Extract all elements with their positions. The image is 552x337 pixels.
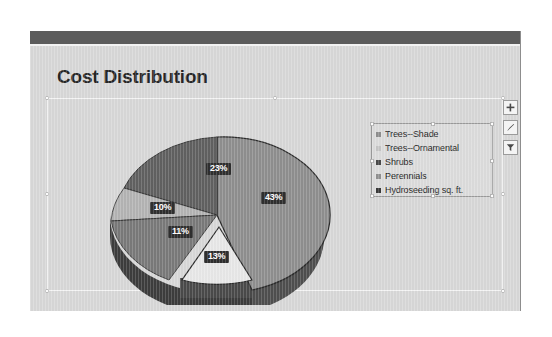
filter-icon xyxy=(506,143,515,152)
data-label-perennials: 11% xyxy=(168,226,193,238)
selection-handle-nw[interactable] xyxy=(45,96,49,100)
legend-swatch-trees-ornamental xyxy=(376,146,381,151)
legend-handle-s[interactable] xyxy=(431,194,435,198)
legend-handle-e[interactable] xyxy=(490,159,494,163)
legend-label-trees-shade: Trees--Shade xyxy=(385,130,439,139)
chart-canvas[interactable]: Cost Distribution xyxy=(30,44,520,311)
legend-label-hydroseeding: Hydroseeding sq. ft. xyxy=(385,186,463,195)
chart-panel[interactable]: Cost Distribution xyxy=(30,31,521,311)
legend-item-perennials[interactable]: Perennials xyxy=(376,169,488,183)
legend-item-shrubs[interactable]: Shrubs xyxy=(376,155,488,169)
legend-handle-n[interactable] xyxy=(431,122,435,126)
legend-handle-nw[interactable] xyxy=(370,122,374,126)
selection-handle-sw[interactable] xyxy=(45,289,49,293)
legend-handle-sw[interactable] xyxy=(370,194,374,198)
legend-handle-ne[interactable] xyxy=(490,122,494,126)
chart-elements-button[interactable] xyxy=(503,100,518,115)
data-label-trees-ornamental: 23% xyxy=(206,163,231,175)
legend-swatch-perennials xyxy=(376,174,381,179)
chart-filters-button[interactable] xyxy=(503,140,518,155)
selection-handle-se[interactable] xyxy=(501,289,505,293)
legend-handle-w[interactable] xyxy=(370,159,374,163)
selection-handle-w[interactable] xyxy=(45,192,49,196)
chart-title[interactable]: Cost Distribution xyxy=(57,66,208,88)
legend-swatch-trees-shade xyxy=(376,132,381,137)
data-label-trees-shade: 43% xyxy=(261,192,286,204)
legend-swatch-shrubs xyxy=(376,160,381,165)
legend-label-perennials: Perennials xyxy=(385,172,427,181)
panel-header-bar xyxy=(30,31,520,44)
pie-chart[interactable]: 23% 43% 10% 11% 13% xyxy=(102,120,332,305)
plus-icon xyxy=(506,103,515,112)
selection-handle-e[interactable] xyxy=(501,192,505,196)
legend-item-trees-shade[interactable]: Trees--Shade xyxy=(376,127,488,141)
selection-handle-n[interactable] xyxy=(273,96,277,100)
legend-label-trees-ornamental: Trees--Ornamental xyxy=(385,144,459,153)
legend-item-trees-ornamental[interactable]: Trees--Ornamental xyxy=(376,141,488,155)
legend-swatch-hydroseeding xyxy=(376,188,381,193)
chart-tools-toolbar[interactable] xyxy=(503,100,518,160)
data-label-shrubs: 10% xyxy=(150,202,175,214)
legend-label-shrubs: Shrubs xyxy=(385,158,413,167)
legend-handle-se[interactable] xyxy=(490,194,494,198)
chart-legend[interactable]: Trees--Shade Trees--Ornamental Shrubs Pe… xyxy=(371,123,493,197)
data-label-hydroseeding: 13% xyxy=(204,251,229,263)
brush-icon xyxy=(506,123,515,132)
chart-styles-button[interactable] xyxy=(503,120,518,135)
